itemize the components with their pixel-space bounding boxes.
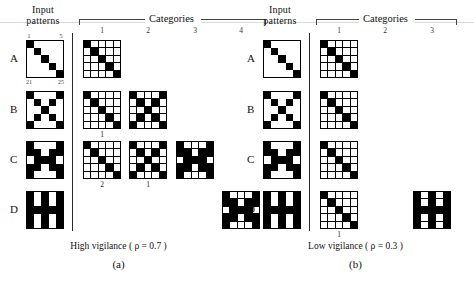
pattern-cell [271, 171, 278, 178]
pattern-cell [271, 206, 278, 213]
pattern-cell [56, 221, 63, 228]
pattern-cell [293, 142, 300, 149]
pattern-cell [343, 122, 349, 128]
pattern-grid [83, 141, 121, 179]
pattern-cell [230, 199, 236, 205]
pattern-cell [271, 214, 278, 221]
pattern-cell [230, 192, 236, 198]
pattern-cell [84, 122, 90, 128]
pattern-cell [278, 164, 285, 171]
category-column-number: 2 [141, 27, 155, 35]
pattern-cell [41, 142, 48, 149]
pattern-cell [336, 41, 342, 47]
pattern-cell [84, 157, 90, 163]
pattern-cell [351, 142, 357, 148]
row-label-c: C [247, 153, 254, 165]
pattern-cell [84, 56, 90, 62]
pattern-cell [56, 149, 63, 156]
category-sub-number: 1 [96, 131, 108, 139]
pattern-cell [278, 142, 285, 149]
pattern-cell [99, 114, 105, 120]
pattern-cell [56, 99, 63, 106]
pattern-cell [56, 63, 63, 70]
pattern-cell [444, 214, 450, 220]
pattern-cell [278, 206, 285, 213]
pattern-cell [271, 121, 278, 128]
pattern-cell [27, 142, 34, 149]
pattern-cell [27, 156, 34, 163]
pattern-cell [336, 149, 342, 155]
pattern-cell [56, 156, 63, 163]
pattern-cell [199, 172, 205, 178]
pattern-cell [278, 221, 285, 228]
pattern-cell [271, 106, 278, 113]
pattern-cell [271, 114, 278, 121]
pattern-cell [264, 192, 271, 199]
pattern-cell [160, 172, 166, 178]
pattern-cell [34, 171, 41, 178]
pattern-cell [286, 149, 293, 156]
pattern-cell [34, 121, 41, 128]
pattern-cell [343, 199, 349, 205]
pattern-cell [286, 92, 293, 99]
pattern-cell [41, 48, 48, 55]
pattern-cell [321, 142, 327, 148]
pattern-cell [137, 172, 143, 178]
pattern-cell [278, 99, 285, 106]
pattern-grid [129, 91, 167, 129]
pattern-cell [421, 214, 427, 220]
pattern-cell [106, 172, 112, 178]
pattern-cell [278, 199, 285, 206]
pattern-grid [413, 191, 451, 229]
pattern-cell [130, 157, 136, 163]
pattern-cell [137, 92, 143, 98]
pattern-cell [429, 207, 435, 213]
pattern-cell [145, 114, 151, 120]
category-sub-number: 1 [142, 181, 154, 189]
category-column-number: 3 [188, 27, 202, 35]
pattern-cell [351, 41, 357, 47]
pattern-cell [130, 107, 136, 113]
pattern-cell [152, 122, 158, 128]
pattern-cell [293, 156, 300, 163]
pattern-cell [321, 48, 327, 54]
pattern-cell [264, 106, 271, 113]
pattern-cell [49, 55, 56, 62]
pattern-cell [278, 55, 285, 62]
pattern-cell [336, 214, 342, 220]
pattern-cell [293, 63, 300, 70]
pattern-cell [99, 41, 105, 47]
pattern-grid [320, 191, 358, 229]
pattern-cell [321, 207, 327, 213]
pattern-cell [264, 114, 271, 121]
pattern-cell [286, 164, 293, 171]
pattern-cell [271, 156, 278, 163]
pattern-cell [321, 199, 327, 205]
pattern-cell [34, 41, 41, 48]
pattern-cell [130, 164, 136, 170]
pattern-cell [414, 214, 420, 220]
pattern-cell [343, 164, 349, 170]
pattern-cell [264, 70, 271, 77]
pattern-cell [49, 48, 56, 55]
pattern-cell [152, 99, 158, 105]
pattern-cell [264, 199, 271, 206]
pattern-cell [230, 222, 236, 228]
pattern-cell [41, 171, 48, 178]
pattern-cell [145, 142, 151, 148]
pattern-cell [91, 107, 97, 113]
pattern-cell [106, 149, 112, 155]
pattern-cell [271, 92, 278, 99]
pattern-cell [114, 63, 120, 69]
pattern-cell [351, 199, 357, 205]
pattern-grid [263, 91, 301, 129]
pattern-cell [286, 142, 293, 149]
pattern-cell [56, 142, 63, 149]
pattern-cell [343, 114, 349, 120]
pattern-grid [26, 91, 64, 129]
pattern-cell [49, 142, 56, 149]
pattern-cell [41, 55, 48, 62]
pattern-cell [34, 99, 41, 106]
pattern-cell [152, 92, 158, 98]
row-label-a: A [10, 52, 18, 64]
